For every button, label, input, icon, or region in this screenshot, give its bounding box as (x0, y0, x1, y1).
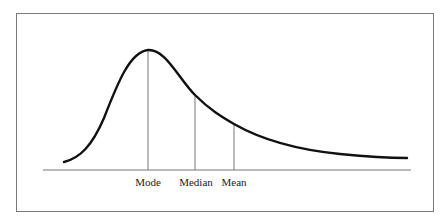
distribution-curve (64, 50, 407, 162)
mode-label: Mode (135, 176, 161, 188)
skewed-distribution-diagram (0, 0, 448, 224)
median-label: Median (179, 176, 213, 188)
mean-label: Mean (221, 176, 246, 188)
